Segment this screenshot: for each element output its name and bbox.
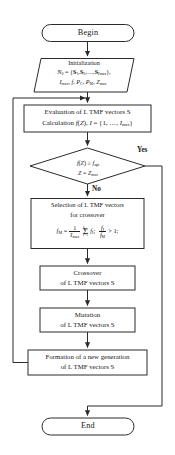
- node-label-crossover-line2: of L TMF vectors S: [41, 279, 134, 286]
- node-label-mutation-line2: of L TMF vectors S: [41, 321, 134, 328]
- node-label-condition-line2: Z = Zmax: [48, 170, 128, 177]
- node-label-mutation-line1: Mutation: [41, 311, 134, 318]
- node-label-selection-line1: Selection of L TMF vectors: [32, 201, 143, 208]
- flowchart-diagram: Begin Initialization N0 = {S1,S2,…,SImax…: [0, 0, 175, 455]
- node-label-formation-line2: of L TMF vectors S: [29, 363, 146, 370]
- node-label-evaluation-line2: Calculation f(Z), I = {1, …, Imax}: [25, 119, 150, 126]
- node-label-end: End: [42, 422, 134, 431]
- node-label-selection-line2: for crossover: [32, 211, 143, 218]
- edge-label-yes: Yes: [137, 147, 171, 155]
- node-label-evaluation-line1: Evaluation of L TMF vectors S: [25, 108, 150, 115]
- node-label-initialization-title: Initialization: [36, 60, 132, 67]
- node-label-begin: Begin: [42, 29, 134, 38]
- node-label-initialization-set: N0 = {S1,S2,…,SImax},: [34, 69, 134, 76]
- node-label-formation-line1: Formation of a new generation: [29, 353, 146, 360]
- node-label-crossover-line1: Crossover: [41, 269, 134, 276]
- node-label-initialization-params: Imax, f, PC, PM, Zmax: [33, 79, 133, 86]
- edge-label-no: No: [92, 186, 122, 194]
- node-label-selection-formula: fM = 1Imax ΣImaxI=1 fI; fIfM > 1;: [32, 225, 143, 239]
- node-label-condition-line1: f(Z) ≥ fopt: [48, 160, 128, 167]
